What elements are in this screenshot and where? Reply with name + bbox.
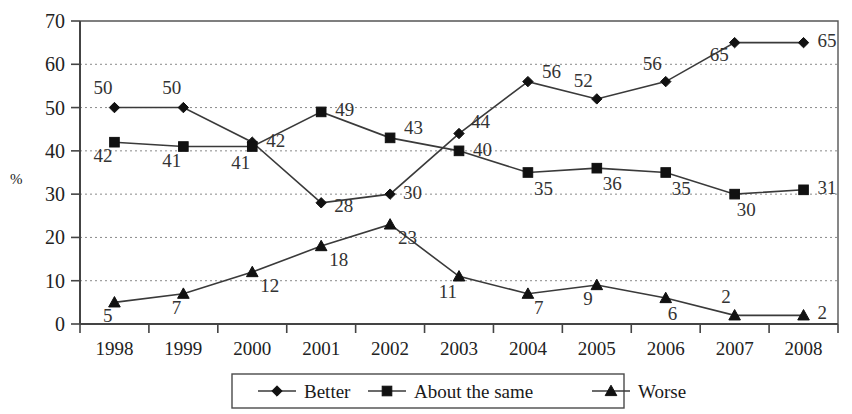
data-point-about-the-same-2004: [523, 168, 533, 178]
x-tick-label-2000: 2000: [233, 338, 271, 359]
data-label-about-the-same-2006: 35: [672, 178, 691, 199]
data-label-worse-1999: 7: [172, 297, 182, 318]
y-tick-label-50: 50: [45, 97, 65, 119]
data-label-about-the-same-2002: 43: [404, 117, 423, 138]
data-point-about-the-same-2006: [661, 168, 671, 178]
chart-canvas: 010203040506070 199819992000200120022003…: [0, 0, 852, 414]
y-axis-title: %: [10, 171, 23, 187]
data-label-worse-2000: 12: [260, 275, 279, 296]
legend-label-0: Better: [304, 381, 351, 402]
x-tick-label-1998: 1998: [95, 338, 133, 359]
data-label-worse-2001: 18: [329, 249, 348, 270]
x-tick-label-2003: 2003: [440, 338, 478, 359]
data-label-better-1998: 50: [93, 77, 112, 98]
data-label-better-2001: 28: [334, 195, 353, 216]
data-label-better-2003: 44: [471, 111, 491, 132]
x-tick-label-2006: 2006: [647, 338, 685, 359]
x-tick-label-2005: 2005: [578, 338, 616, 359]
y-tick-label-70: 70: [45, 10, 65, 32]
data-label-better-2008: 65: [818, 30, 837, 51]
data-label-better-2000: 42: [266, 130, 285, 151]
x-axis-ticks: 1998199920002001200220032004200520062007…: [80, 324, 838, 359]
data-label-about-the-same-2001: 49: [335, 99, 354, 120]
y-tick-label-10: 10: [45, 270, 65, 292]
y-tick-label-20: 20: [45, 226, 65, 248]
x-tick-label-2002: 2002: [371, 338, 409, 359]
data-label-about-the-same-1999: 41: [162, 150, 181, 171]
x-tick-label-2004: 2004: [509, 338, 548, 359]
data-label-better-2006: 56: [643, 53, 662, 74]
line-chart: 010203040506070 199819992000200120022003…: [0, 0, 852, 414]
data-point-about-the-same-2007: [730, 189, 740, 199]
y-tick-label-40: 40: [45, 140, 65, 162]
y-axis-ticks: 010203040506070: [45, 10, 80, 335]
data-label-about-the-same-2007: 30: [737, 199, 756, 220]
legend-label-2: Worse: [638, 381, 686, 402]
data-label-worse-2006: 6: [668, 303, 678, 324]
data-label-about-the-same-2004: 35: [534, 178, 553, 199]
x-tick-label-2001: 2001: [302, 338, 340, 359]
data-label-about-the-same-1998: 42: [93, 145, 112, 166]
data-point-about-the-same-2003: [454, 146, 464, 156]
chart-legend[interactable]: BetterAbout the sameWorse: [232, 374, 686, 408]
y-tick-label-0: 0: [55, 313, 65, 335]
legend-marker-square-icon: [382, 386, 392, 396]
legend-label-1: About the same: [414, 381, 533, 402]
data-point-about-the-same-2008: [799, 185, 809, 195]
x-tick-label-2007: 2007: [716, 338, 754, 359]
y-tick-label-30: 30: [45, 183, 65, 205]
x-tick-label-1999: 1999: [164, 338, 202, 359]
data-label-worse-2004: 7: [534, 297, 544, 318]
data-label-better-2002: 30: [403, 182, 422, 203]
y-tick-label-60: 60: [45, 53, 65, 75]
data-label-worse-2007: 2: [721, 286, 731, 307]
data-point-about-the-same-2000: [247, 142, 257, 152]
data-point-about-the-same-2001: [316, 107, 326, 117]
data-label-worse-2002: 23: [398, 227, 417, 248]
data-point-about-the-same-2005: [592, 163, 602, 173]
data-label-about-the-same-2008: 31: [818, 177, 837, 198]
data-label-better-1999: 50: [162, 77, 181, 98]
data-label-worse-2005: 9: [583, 288, 593, 309]
data-label-worse-2003: 11: [439, 281, 457, 302]
data-label-about-the-same-2000: 41: [231, 152, 250, 173]
data-label-about-the-same-2003: 40: [473, 139, 492, 160]
data-label-worse-2008: 2: [818, 302, 828, 323]
data-label-better-2005: 52: [574, 70, 593, 91]
data-label-worse-1998: 5: [103, 305, 113, 326]
data-label-better-2007: 65: [710, 44, 729, 65]
data-label-better-2004: 56: [542, 61, 561, 82]
data-label-about-the-same-2005: 36: [603, 173, 622, 194]
data-point-about-the-same-2002: [385, 133, 395, 143]
x-tick-label-2008: 2008: [785, 338, 823, 359]
